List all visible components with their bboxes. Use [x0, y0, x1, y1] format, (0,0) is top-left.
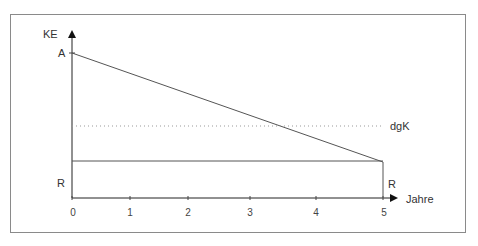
- label-a: A: [58, 47, 65, 59]
- x-tick-0: 0: [70, 207, 76, 218]
- label-dgk: dgK: [390, 120, 410, 132]
- label-r-right: R: [388, 178, 396, 190]
- x-tick-3: 3: [247, 207, 253, 218]
- y-axis-label: KE: [43, 28, 58, 40]
- label-r-left: R: [57, 177, 65, 189]
- declining-capital-line: [72, 53, 383, 162]
- x-tick-1: 1: [127, 207, 133, 218]
- x-tick-4: 4: [313, 207, 319, 218]
- x-axis-label: Jahre: [406, 193, 434, 205]
- x-tick-5: 5: [381, 207, 387, 218]
- x-tick-2: 2: [185, 207, 191, 218]
